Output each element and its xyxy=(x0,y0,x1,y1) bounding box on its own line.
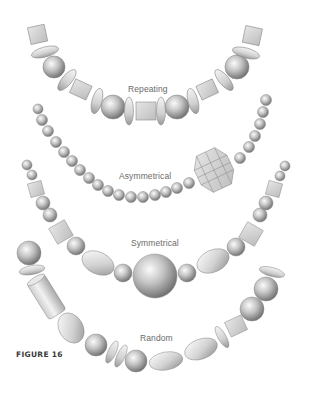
figure-label: FIGURE 16 xyxy=(16,350,63,359)
label-random: Random xyxy=(140,333,173,343)
label-repeating: Repeating xyxy=(128,84,168,94)
label-asymmetrical: Asymmetrical xyxy=(119,171,171,181)
necklace-repeating xyxy=(28,24,263,125)
label-symmetrical: Symmetrical xyxy=(131,238,179,248)
